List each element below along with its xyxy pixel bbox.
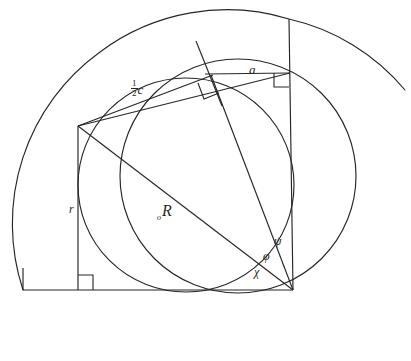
label-radius-R-letter: R [162,202,172,219]
segment-ray-phi [211,75,293,290]
geometry-figure: r oR a 12c ψ φ χ [0,0,411,361]
label-half-chord: 12c [131,79,143,97]
right-angle-marker-bottom-left [78,275,93,290]
right-circle [120,59,356,293]
label-angle-psi: ψ [274,235,281,247]
segment-side-a [205,73,290,74]
geometry-canvas [0,0,411,361]
outer-arc [12,10,405,290]
main-circle [78,78,294,292]
segment-radius-R [78,126,293,290]
label-half-chord-letter: c [138,82,144,97]
segment-half-chord [78,75,213,126]
label-side-a: a [249,63,256,76]
label-angle-chi: χ [254,266,259,278]
segment-chord-top-right [78,73,290,126]
label-radius-R: oR [157,203,172,222]
label-angle-phi: φ [263,250,270,262]
label-radius-R-prefix: o [157,213,161,222]
label-radius-r: r [69,203,74,215]
